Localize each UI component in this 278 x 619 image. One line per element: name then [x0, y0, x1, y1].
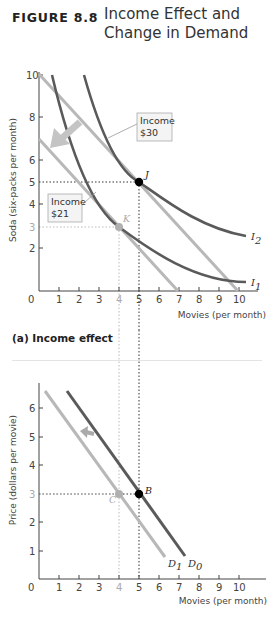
svg-text:3: 3	[29, 489, 35, 500]
svg-text:2: 2	[29, 517, 35, 528]
y-tick-labels-a: 10 8 6 5 4 3 2	[26, 70, 39, 254]
label-i1: I 1	[250, 277, 261, 292]
svg-text:2: 2	[76, 294, 82, 305]
point-j	[135, 178, 143, 186]
svg-text:8: 8	[196, 294, 202, 305]
svg-text:4: 4	[116, 582, 122, 593]
x-axis-title-a: Movies (per month)	[178, 310, 266, 320]
svg-text:10: 10	[233, 582, 246, 593]
point-k	[115, 223, 123, 231]
point-c-label: C	[109, 494, 117, 505]
svg-text:1: 1	[176, 561, 182, 572]
label-d0: D 0	[187, 558, 203, 572]
svg-text:4: 4	[116, 294, 122, 305]
demand-shift-arrow-icon	[80, 426, 94, 438]
point-b-label: B	[144, 485, 152, 496]
svg-text:2: 2	[254, 235, 261, 246]
svg-text:7: 7	[176, 582, 182, 593]
svg-text:3: 3	[96, 294, 102, 305]
y-axis-title-a: Soda (six-packs per month)	[8, 118, 18, 242]
panel-a-caption: (a) Income effect	[12, 332, 113, 344]
axes-b	[39, 383, 266, 579]
svg-text:5: 5	[136, 294, 142, 305]
svg-text:10: 10	[233, 294, 246, 305]
guide-lines-b	[39, 330, 139, 579]
svg-text:1: 1	[29, 546, 35, 557]
y-tick-labels-b: 6 5 4 3 2 1	[29, 403, 35, 557]
point-j-label: J	[143, 169, 150, 180]
svg-text:D: D	[187, 558, 196, 569]
svg-text:8: 8	[196, 582, 202, 593]
svg-text:6: 6	[29, 403, 35, 414]
svg-text:4: 4	[29, 199, 35, 210]
svg-text:0: 0	[28, 294, 34, 305]
svg-text:1: 1	[56, 294, 62, 305]
svg-text:5: 5	[136, 582, 142, 593]
svg-text:Income: Income	[51, 196, 86, 207]
x-tick-labels-b: 0 1 2 3 4 5 6 7 8 9 10	[28, 582, 246, 593]
svg-text:0: 0	[196, 561, 203, 572]
demand-curve-d1	[45, 391, 165, 557]
svg-text:2: 2	[76, 582, 82, 593]
income-21-box: Income $21	[48, 192, 96, 222]
svg-text:Income: Income	[140, 115, 175, 126]
point-c	[115, 490, 123, 498]
svg-text:$30: $30	[140, 127, 158, 138]
svg-text:5: 5	[29, 432, 35, 443]
svg-text:3: 3	[96, 582, 102, 593]
svg-text:6: 6	[29, 155, 35, 166]
demand-curve-d0	[67, 391, 185, 556]
svg-text:2: 2	[29, 243, 35, 254]
income-30-box: Income $30	[108, 113, 175, 141]
svg-text:9: 9	[216, 294, 222, 305]
svg-text:10: 10	[26, 70, 39, 81]
panel-divider	[12, 360, 262, 361]
svg-text:9: 9	[216, 582, 222, 593]
svg-text:7: 7	[176, 294, 182, 305]
svg-text:8: 8	[29, 112, 35, 123]
label-i2: I 2	[250, 231, 261, 246]
svg-text:1: 1	[255, 281, 261, 292]
svg-text:5: 5	[29, 177, 35, 188]
svg-text:6: 6	[156, 582, 162, 593]
svg-text:4: 4	[29, 460, 35, 471]
svg-text:6: 6	[156, 294, 162, 305]
svg-text:$21: $21	[51, 208, 69, 219]
y-axis-title-b: Price (dollars per movie)	[8, 415, 18, 525]
svg-text:1: 1	[56, 582, 62, 593]
point-k-label: K	[122, 213, 131, 224]
x-tick-labels-a: 0 1 2 3 4 5 6 7 8 9 10	[28, 294, 246, 305]
point-b	[135, 490, 143, 498]
panel-a-chart: 10 8 6 5 4 3 2 0 1 2 3 4 5 6 7 8 9 10 Mo…	[0, 0, 278, 330]
svg-text:0: 0	[28, 582, 34, 593]
indifference-curve-i1	[52, 75, 246, 282]
svg-text:D: D	[167, 558, 176, 569]
x-axis-title-b: Movies (per month)	[179, 596, 267, 606]
label-d1: D 1	[167, 558, 182, 572]
svg-text:3: 3	[29, 222, 35, 233]
